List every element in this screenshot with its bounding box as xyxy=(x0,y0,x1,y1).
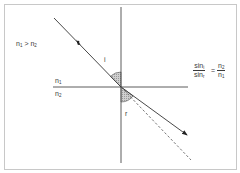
medium-lower-label: n2 xyxy=(55,90,61,98)
condition-label: n1 > n2 xyxy=(16,40,37,48)
formula-left-fraction: sini sinr xyxy=(193,62,205,79)
formula-right-fraction: n2 n1 xyxy=(217,62,225,79)
formula-right-numerator: n2 xyxy=(217,62,225,71)
medium-upper-sub: 1 xyxy=(59,80,62,85)
condition-operator: > xyxy=(24,40,28,47)
medium-lower-sub: 2 xyxy=(59,93,62,98)
condition-rhs-sub: 2 xyxy=(34,43,37,48)
formula-right-denominator: n1 xyxy=(217,71,225,79)
formula-equals: = xyxy=(211,67,215,75)
formula-left-denominator: sinr xyxy=(193,71,205,79)
angle-refraction-label: r xyxy=(125,110,127,118)
refraction-diagram xyxy=(0,0,240,173)
medium-upper-label: n1 xyxy=(55,77,61,85)
condition-lhs-sub: 1 xyxy=(20,43,23,48)
incident-ray-arrow-dot xyxy=(77,41,79,43)
formula-left-numerator: sini xyxy=(193,62,205,71)
angle-incidence-label: i xyxy=(104,56,106,64)
